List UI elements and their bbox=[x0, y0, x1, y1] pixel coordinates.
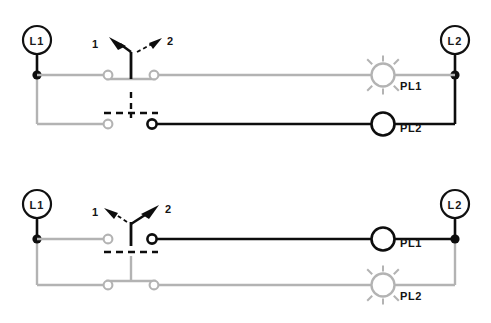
l1-terminal-label: L1 bbox=[30, 35, 45, 47]
l1-terminal-label: L1 bbox=[30, 199, 45, 211]
contact-terminal-left bbox=[104, 120, 113, 129]
ladder-diagram-figure: L1 L2 bbox=[0, 0, 491, 323]
arrow-2-head bbox=[149, 38, 162, 49]
contact-terminal-left bbox=[104, 281, 113, 290]
lamp-pl1-label: PL1 bbox=[400, 237, 422, 249]
switch-arrow-position-1 bbox=[109, 37, 131, 52]
l2-terminal-label: L2 bbox=[448, 199, 463, 211]
rung-pl1: PL1 bbox=[37, 56, 455, 95]
switch-position-2-label: 2 bbox=[165, 203, 171, 215]
arrow-2-shaft bbox=[131, 215, 145, 224]
ladder-diagram-canvas: L1 L2 bbox=[0, 0, 491, 323]
lamp-pl1-bulb bbox=[372, 64, 395, 87]
contact-terminal-right bbox=[147, 119, 156, 128]
switch-position-1-label: 1 bbox=[92, 206, 98, 218]
switch-arrow-position-2 bbox=[137, 38, 162, 52]
contact-terminal-right bbox=[147, 234, 156, 243]
l1-terminal: L1 bbox=[23, 190, 51, 218]
lamp-pl2 bbox=[372, 113, 395, 136]
l2-terminal: L2 bbox=[441, 190, 469, 218]
lamp-pl1-bulb bbox=[372, 228, 395, 251]
rung-pl1: PL1 bbox=[37, 228, 455, 251]
contact-terminal-left bbox=[104, 71, 113, 80]
rung-pl2: PL2 bbox=[37, 266, 455, 305]
lamp-pl2-bulb bbox=[372, 113, 395, 136]
switch-arrow-position-1 bbox=[104, 208, 127, 222]
switch-position-1-label: 1 bbox=[92, 38, 98, 50]
arrow-2-shaft bbox=[137, 44, 152, 52]
contact-terminal-right bbox=[150, 281, 159, 290]
diagram-top: L1 L2 bbox=[23, 26, 469, 136]
l2-terminal: L2 bbox=[441, 26, 469, 54]
rung-pl2: PL2 bbox=[37, 113, 455, 136]
lamp-pl1 bbox=[372, 228, 395, 251]
lamp-pl2-bulb bbox=[372, 274, 395, 297]
l1-terminal: L1 bbox=[23, 26, 51, 54]
switch-arrow-position-2 bbox=[131, 205, 159, 224]
switch-position-2-label: 2 bbox=[167, 35, 173, 47]
contact-terminal-left bbox=[104, 235, 113, 244]
arrow-1-shaft bbox=[115, 214, 127, 222]
l2-terminal-label: L2 bbox=[448, 35, 463, 47]
diagram-bottom: L1 L2 PL1 bbox=[23, 190, 469, 305]
arrow-1-head bbox=[104, 208, 118, 219]
contact-terminal-right bbox=[150, 71, 159, 80]
lamp-pl2-label: PL2 bbox=[400, 122, 422, 134]
lamp-pl2-label: PL2 bbox=[400, 290, 422, 302]
lamp-pl1-label: PL1 bbox=[400, 80, 422, 92]
